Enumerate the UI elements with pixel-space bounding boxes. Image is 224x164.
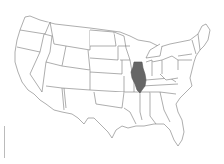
us-map xyxy=(0,0,224,164)
scale-bar xyxy=(4,126,5,158)
